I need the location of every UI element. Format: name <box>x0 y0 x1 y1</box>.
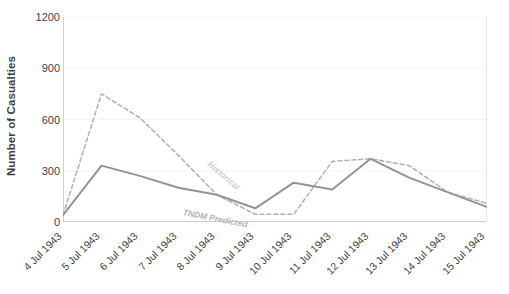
x-tick-label: 5 Jul 1943 <box>59 230 102 273</box>
x-tick-label: 8 Jul 1943 <box>174 230 217 273</box>
casualties-line-chart: Number of Casualties 12009006003000 Hist… <box>0 0 509 294</box>
series-line-tndm-predicted <box>63 159 486 215</box>
series-lines <box>63 94 486 215</box>
y-tick-label: 0 <box>22 217 60 228</box>
series-line-historical <box>63 94 486 215</box>
gridlines <box>63 17 487 171</box>
y-tick-label: 600 <box>22 114 60 125</box>
x-tick-label: 7 Jul 1943 <box>136 230 179 273</box>
x-tick-label: 6 Jul 1943 <box>97 230 140 273</box>
y-axis-title-label: Number of Casualties <box>5 56 17 176</box>
y-axis-title: Number of Casualties <box>0 0 22 232</box>
y-tick-label: 1200 <box>22 12 60 23</box>
plot-area: Historical TNDM Predicted <box>63 17 487 222</box>
y-tick-label: 900 <box>22 63 60 74</box>
x-axis-tick-labels: 4 Jul 19435 Jul 19436 Jul 19437 Jul 1943… <box>63 222 487 294</box>
y-tick-label: 300 <box>22 165 60 176</box>
plot-svg <box>63 17 487 222</box>
